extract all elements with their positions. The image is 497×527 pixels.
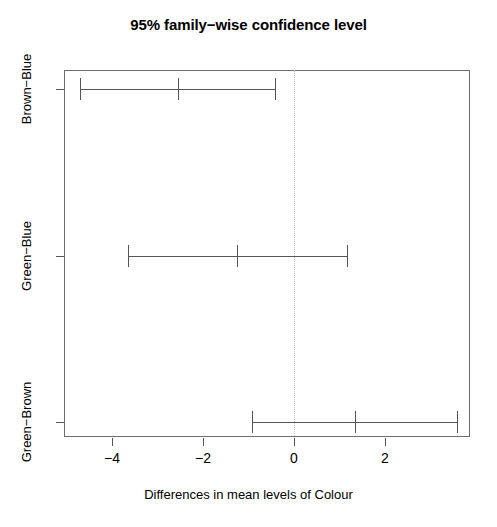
y-axis-tick <box>56 422 64 423</box>
interval-point-estimate <box>355 411 356 433</box>
y-axis-category-label: Green−Brown <box>19 352 34 492</box>
interval-upper-cap <box>347 245 348 267</box>
y-axis-category-label: Brown−Blue <box>19 19 34 159</box>
y-axis-tick <box>56 256 64 257</box>
interval-lower-cap <box>252 411 253 433</box>
interval-upper-cap <box>457 411 458 433</box>
chart-title: 95% family−wise confidence level <box>0 16 497 33</box>
x-axis-tick-label: −4 <box>82 450 142 466</box>
interval-upper-cap <box>275 78 276 100</box>
plot-panel-border <box>64 70 470 437</box>
x-axis-tick <box>112 438 113 446</box>
tukey-confidence-interval-plot: 95% family−wise confidence level −4−202 … <box>0 0 497 527</box>
y-axis-tick <box>56 89 64 90</box>
interval-lower-cap <box>80 78 81 100</box>
interval-point-estimate <box>178 78 179 100</box>
x-axis-tick <box>203 438 204 446</box>
x-axis-title: Differences in mean levels of Colour <box>0 487 497 502</box>
interval-point-estimate <box>237 245 238 267</box>
x-axis-tick-label: −2 <box>173 450 233 466</box>
y-axis-category-label: Green−Blue <box>19 186 34 326</box>
x-axis-tick <box>385 438 386 446</box>
x-axis-tick-label: 2 <box>355 450 415 466</box>
interval-lower-cap <box>128 245 129 267</box>
x-axis-tick <box>294 438 295 446</box>
x-axis-tick-label: 0 <box>264 450 324 466</box>
zero-reference-line <box>294 70 295 438</box>
